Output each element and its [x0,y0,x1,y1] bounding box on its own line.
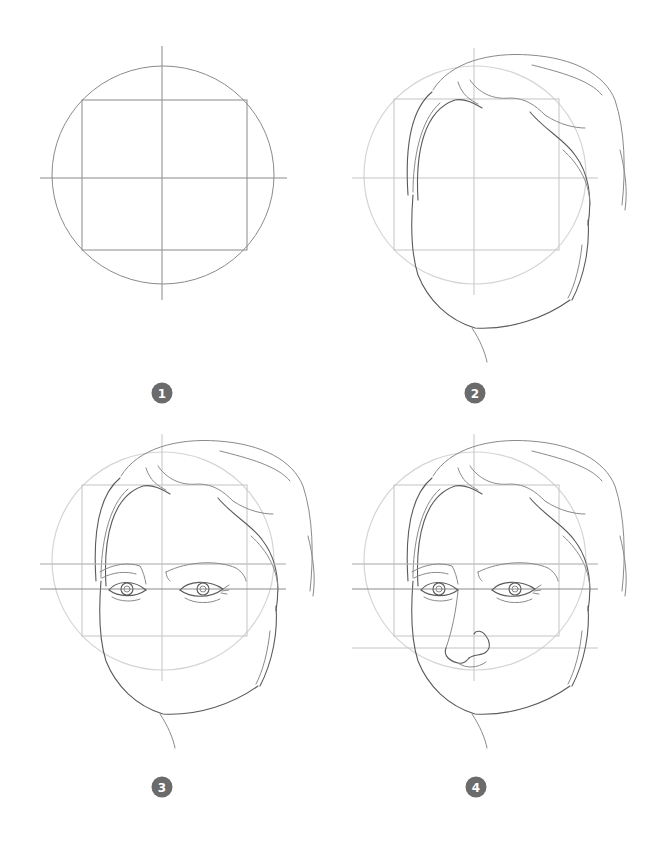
step-1-badge: 1 [152,383,173,404]
head-circle-guide [52,66,274,284]
step-2-badge: 2 [465,383,486,404]
step-2-number: 2 [471,387,479,401]
drawing-tutorial-canvas: 1 2 3 4 [0,0,667,853]
head-outline [407,54,626,362]
step-3-number: 3 [158,781,166,795]
eyes-and-eyebrows [40,563,286,603]
face-square-guide [82,100,247,250]
step-3-panel [40,434,314,748]
nose [445,591,489,667]
step-4-badge: 4 [466,777,487,798]
step-1-number: 1 [158,387,166,401]
step-4-number: 4 [472,781,480,795]
faint-guides [40,434,286,681]
step-1-panel [40,46,287,300]
faint-guides [352,434,598,681]
faint-guides [352,48,598,295]
eyes-and-eyebrows [352,563,598,603]
step-2-panel [352,48,626,362]
step-3-badge: 3 [152,777,173,798]
step-4-panel [352,434,626,748]
